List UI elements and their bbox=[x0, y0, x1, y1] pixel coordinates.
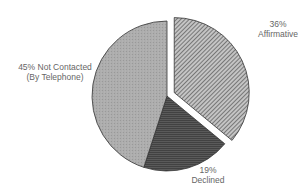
label-affirmative-line2: Affirmative bbox=[250, 29, 306, 39]
label-declined-line1: 19% bbox=[188, 165, 228, 175]
label-not-contacted: 45% Not Contacted (By Telephone) bbox=[10, 62, 100, 82]
label-declined-line2: Declined bbox=[188, 175, 228, 185]
label-declined: 19% Declined bbox=[188, 165, 228, 185]
label-affirmative-line1: 36% bbox=[250, 19, 306, 29]
label-affirmative: 36% Affirmative bbox=[250, 19, 306, 39]
label-not-contacted-line2: (By Telephone) bbox=[10, 72, 100, 82]
label-not-contacted-line1: 45% Not Contacted bbox=[10, 62, 100, 72]
